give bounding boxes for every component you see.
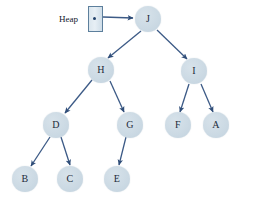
tree-node-label: H [97,65,104,75]
edge-i-to-a [201,84,213,112]
edge-h-to-g [110,81,124,112]
tree-node-f[interactable]: F [165,112,191,138]
tree-node-label: J [146,14,150,24]
tree-node-label: A [212,120,219,130]
tree-node-label: G [126,120,133,130]
tree-node-h[interactable]: H [88,57,114,83]
edge-i-to-f [180,84,189,112]
edge-d-to-c [61,137,70,165]
edge-heap-to-j [103,17,133,18]
tree-node-j[interactable]: J [135,6,161,32]
tree-node-e[interactable]: E [104,166,130,192]
heap-pointer-dot [93,17,96,20]
tree-node-a[interactable]: A [203,112,229,138]
tree-node-label: C [67,174,74,184]
tree-node-c[interactable]: C [57,166,83,192]
tree-node-label: E [114,174,120,184]
edge-j-to-i [157,30,187,59]
tree-node-label: D [52,120,59,130]
tree-node-i[interactable]: I [181,58,207,84]
heap-pointer-label: Heap [59,14,78,24]
tree-edges [31,17,213,166]
tree-node-d[interactable]: D [43,112,69,138]
edge-j-to-h [108,31,141,58]
tree-node-label: I [192,66,196,76]
edge-h-to-d [65,80,92,113]
tree-node-b[interactable]: B [12,166,38,192]
tree-node-label: B [22,174,29,184]
tree-node-label: F [175,120,181,130]
diagram-canvas: JHIDGFABCE Heap [0,0,254,207]
edge-d-to-b [31,137,50,166]
edge-g-to-e [119,137,126,165]
tree-node-g[interactable]: G [117,112,143,138]
